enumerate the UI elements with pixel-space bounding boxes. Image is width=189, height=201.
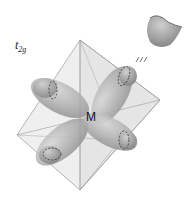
orbital-label: t2g bbox=[15, 38, 26, 54]
inset-lobe bbox=[147, 16, 182, 47]
t2g-orbital-diagram bbox=[0, 0, 189, 201]
metal-center-label: M bbox=[86, 110, 96, 124]
equivalence-symbol bbox=[136, 57, 147, 62]
